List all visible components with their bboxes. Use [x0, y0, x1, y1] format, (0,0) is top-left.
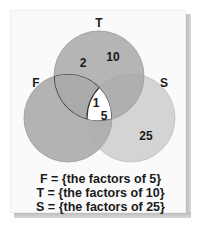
value-2: 2 [80, 56, 87, 70]
set-definitions: F = {the factors of 5} T = {the factors … [0, 172, 201, 214]
value-5: 5 [101, 109, 108, 123]
definition-s: S = {the factors of 25} [0, 200, 201, 214]
definition-t: T = {the factors of 10} [0, 186, 201, 200]
set-t-label: T [95, 16, 103, 30]
set-f-label: F [32, 76, 39, 90]
definition-f: F = {the factors of 5} [0, 172, 201, 186]
set-s-label: S [160, 76, 168, 90]
value-1: 1 [93, 96, 100, 110]
value-25: 25 [139, 129, 153, 143]
value-10: 10 [106, 50, 120, 64]
